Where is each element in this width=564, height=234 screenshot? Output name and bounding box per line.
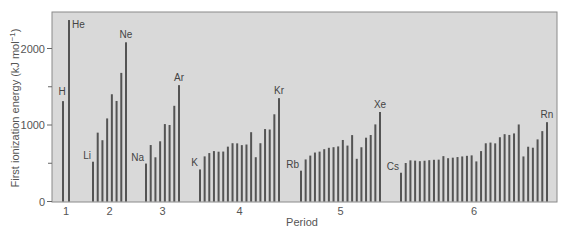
bar-O — [116, 101, 118, 202]
bar-Gd — [442, 156, 444, 201]
bar-Ar — [178, 85, 180, 201]
bar-Cs — [400, 173, 402, 202]
bar-Pb — [527, 147, 529, 202]
bar-Cd — [351, 135, 353, 201]
element-label-Cs: Cs — [387, 161, 399, 172]
element-label-Rn: Rn — [541, 109, 554, 120]
bar-Zr — [314, 153, 316, 202]
bar-Nd — [424, 161, 426, 202]
bar-Kr — [278, 98, 280, 201]
bar-Sr — [305, 159, 307, 201]
element-label-Ar: Ar — [174, 72, 185, 83]
bar-Ho — [457, 157, 459, 201]
bar-W — [489, 143, 491, 202]
bar-Xe — [379, 112, 381, 202]
bar-Li — [92, 162, 94, 202]
bar-S — [169, 125, 171, 202]
y-tick-label: 1000 — [21, 119, 45, 131]
bar-I — [374, 124, 376, 201]
bar-B — [101, 140, 103, 201]
bar-Tc — [328, 148, 330, 202]
bar-Ir — [504, 134, 506, 201]
bar-Tb — [447, 158, 449, 201]
x-tick-label-period-2: 2 — [106, 205, 112, 217]
bar-Hf — [480, 151, 482, 201]
bar-Ba — [405, 163, 407, 201]
bar-Cu — [245, 145, 247, 202]
bar-N — [111, 94, 113, 201]
y-tick-label: 0 — [39, 196, 45, 208]
element-label-Li: Li — [83, 150, 91, 161]
bar-Se — [269, 130, 271, 202]
element-label-Xe: Xe — [374, 99, 387, 110]
element-label-Kr: Kr — [274, 85, 285, 96]
bar-Ga — [255, 157, 257, 201]
bar-Pt — [508, 135, 510, 202]
bar-Mg — [150, 145, 152, 201]
bar-Au — [513, 133, 515, 201]
bar-Bi — [532, 148, 534, 202]
bar-C — [106, 118, 108, 201]
bar-Eu — [438, 160, 440, 202]
bar-La — [409, 160, 411, 201]
bar-Ce — [414, 161, 416, 202]
element-label-Ne: Ne — [120, 29, 133, 40]
bar-Si — [159, 141, 161, 201]
bar-Re — [494, 143, 496, 201]
bar-P — [164, 124, 166, 201]
bar-Hg — [518, 124, 520, 201]
bar-Rh — [337, 146, 339, 201]
x-axis-title: Period — [286, 216, 318, 228]
bar-Rn — [546, 122, 548, 201]
bar-Al — [154, 157, 156, 201]
bar-In — [356, 159, 358, 202]
bar-Cl — [173, 106, 175, 202]
bar-Ne — [125, 42, 127, 201]
bar-Pm — [428, 160, 430, 201]
x-tick-label-period-3: 3 — [159, 205, 165, 217]
bar-Sb — [365, 138, 367, 202]
bar-Zn — [250, 132, 252, 201]
bar-Ti — [213, 151, 215, 201]
bar-Br — [273, 114, 275, 201]
bar-Yb — [471, 155, 473, 201]
bar-Dy — [452, 158, 454, 202]
bar-Pr — [419, 161, 421, 201]
bar-Be — [97, 133, 99, 202]
bar-Tm — [466, 156, 468, 202]
bar-Nb — [319, 152, 321, 202]
bar-Mn — [227, 147, 229, 202]
x-tick-label-period-1: 1 — [63, 205, 69, 217]
bar-Sn — [360, 147, 362, 201]
ionization-energy-chart: HHeLiNeNaArKKrRbXeCsRn 010002000 123456 … — [0, 0, 564, 234]
bar-Cr — [222, 152, 224, 202]
bar-F — [120, 73, 122, 202]
bar-Ca — [204, 156, 206, 201]
bar-K — [199, 169, 201, 201]
bar-Na — [145, 164, 147, 202]
element-label-He: He — [72, 19, 85, 30]
element-label-K: K — [191, 157, 198, 168]
y-tick-label: 2000 — [21, 43, 45, 55]
bar-H — [62, 101, 64, 201]
bar-Tl — [522, 156, 524, 201]
bar-Ru — [333, 147, 335, 201]
x-tick-label-period-4: 4 — [236, 205, 242, 217]
y-axis-title: First ionization energy (kJ mol−1) — [8, 29, 21, 188]
element-label-Rb: Rb — [286, 159, 299, 170]
bar-Rb — [300, 171, 302, 202]
bar-Os — [499, 137, 501, 201]
bar-Sm — [433, 160, 435, 202]
bar-Ta — [485, 143, 487, 201]
bar-Pd — [342, 140, 344, 202]
x-tick-label-period-5: 5 — [337, 205, 343, 217]
bar-Ge — [259, 143, 261, 201]
element-label-H: H — [58, 86, 65, 97]
bar-At — [541, 131, 543, 201]
x-axis: 123456 — [63, 205, 477, 217]
bar-Lu — [475, 161, 477, 201]
y-axis: 010002000 — [21, 43, 52, 208]
bar-Er — [461, 156, 463, 201]
bar-Te — [370, 135, 372, 201]
bar-Sc — [208, 153, 210, 201]
